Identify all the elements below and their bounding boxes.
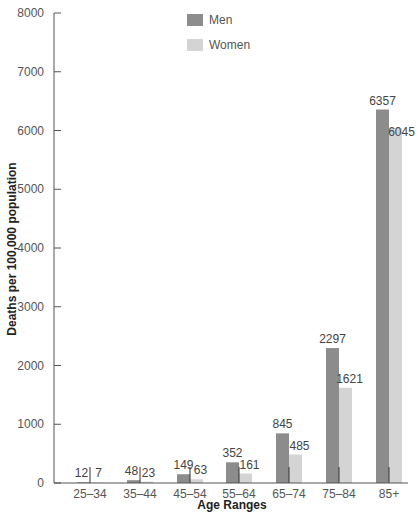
x-tick-label: 25–34 xyxy=(73,487,107,501)
y-tick-label: 3000 xyxy=(17,300,44,314)
value-label-men: 12 xyxy=(75,466,89,480)
value-label-women: 161 xyxy=(239,458,259,472)
value-label-women: 23 xyxy=(142,466,156,480)
y-tick-label: 4000 xyxy=(17,241,44,255)
legend-label-women: Women xyxy=(209,38,250,52)
value-label-women: 1621 xyxy=(336,372,363,386)
bar-men xyxy=(226,462,239,483)
legend-swatch-women xyxy=(187,39,203,51)
x-tick-label: 75–84 xyxy=(322,487,356,501)
figure-caption-cropped xyxy=(0,512,419,526)
bar-women xyxy=(190,479,203,483)
x-tick-label: 35–44 xyxy=(123,487,157,501)
value-label-men: 6357 xyxy=(369,94,396,108)
value-label-men: 149 xyxy=(173,458,193,472)
y-tick-label: 2000 xyxy=(17,359,44,373)
y-tick-label: 6000 xyxy=(17,124,44,138)
bar-men xyxy=(276,433,289,483)
value-label-women: 63 xyxy=(194,463,208,477)
bar-men xyxy=(326,348,339,483)
value-label-women: 485 xyxy=(289,439,309,453)
bar-men xyxy=(177,474,190,483)
value-label-men: 845 xyxy=(272,417,292,431)
x-tick-label: 85+ xyxy=(379,487,399,501)
y-axis-title: Deaths per 100,000 population xyxy=(5,162,19,335)
legend-label-men: Men xyxy=(209,13,232,27)
y-tick-label: 5000 xyxy=(17,182,44,196)
y-tick-label: 8000 xyxy=(17,6,44,20)
bar-chart: 010002000300040005000600070008000 127482… xyxy=(0,0,419,526)
bar-women xyxy=(339,388,352,483)
x-tick-label: 65–74 xyxy=(272,487,306,501)
bar-women xyxy=(389,128,402,483)
value-label-women: 7 xyxy=(95,466,102,480)
bar-men xyxy=(376,110,389,483)
bar-women xyxy=(289,455,302,483)
y-tick-label: 1000 xyxy=(17,417,44,431)
legend: Men Women xyxy=(187,13,250,52)
x-axis-title: Age Ranges xyxy=(197,498,267,512)
y-tick-label: 7000 xyxy=(17,65,44,79)
bar-women xyxy=(239,474,252,483)
legend-swatch-men xyxy=(187,14,203,26)
value-label-men: 2297 xyxy=(319,332,346,346)
value-label-women: 6045 xyxy=(388,125,415,139)
y-tick-label: 0 xyxy=(37,476,44,490)
bars: 1274823149633521618454852297162163576045 xyxy=(75,94,415,483)
value-label-men: 48 xyxy=(125,464,139,478)
